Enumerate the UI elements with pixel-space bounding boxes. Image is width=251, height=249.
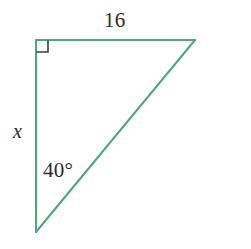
geometry-figure: 16 x 40° [0,0,251,249]
triangle-drawing-canvas [0,0,251,249]
side-length-label-left: x [13,121,22,141]
angle-measure-label: 40° [43,160,73,181]
side-length-label-top: 16 [104,10,126,31]
